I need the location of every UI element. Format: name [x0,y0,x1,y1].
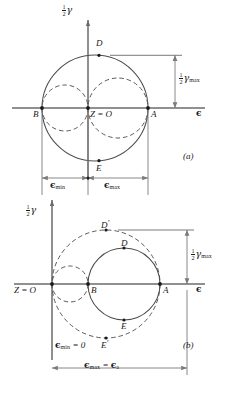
gamma-max-label-a-subscript: max [189,77,200,83]
y-axis-label-b-fraction: 1 2 [26,204,30,218]
eps-min-arrow-left-a [42,176,48,181]
x-axis-label-a: ϵ [196,109,201,118]
gamma-max-label-a: 1 2 γmax [179,72,200,86]
eps-min-equals-b: = 0 [72,340,85,350]
panel-a-axes [12,20,205,180]
point-marker-a-b [158,282,162,286]
eps-max-arrow-right-a [142,176,148,181]
point-marker-e-a [97,159,100,162]
gamma-max-dimension-a [110,55,182,108]
point-marker-b-a [40,106,44,110]
x-axis-label-b: ϵ [196,285,201,294]
point-label-e-prime-b: E′ [101,340,108,350]
y-axis-label-b: 1 2 γ [26,204,36,218]
y-axis-label-a-gamma: γ [67,4,73,15]
mohr-circle-diagram-a [0,0,225,393]
y-axis-label-b-gamma: γ [31,204,37,215]
point-label-d-a: D [96,39,103,48]
point-label-a-b: A [163,286,169,295]
point-label-b-b: B [91,286,97,295]
eps-max-arrow-left-b [52,366,58,371]
gamma-max-dimension-b [118,230,194,284]
point-marker-a-a [146,106,150,110]
y-axis-arrowhead-a [86,20,90,26]
eps-max-label-b: ϵmax = ϵa [84,361,119,370]
gamma-max-label-b-subscript: max [201,253,212,259]
epsilon-dimensions-b [52,290,187,375]
point-marker-z-o-b [50,282,54,286]
eps-min-label-b: ϵmin = 0 [55,341,85,350]
eps-mid-tick-a [87,177,90,180]
point-label-b-a: B [33,110,39,119]
eps-max-arrow-right-b [181,366,187,371]
y-axis-arrowhead-b [50,200,54,206]
eps-max-label-a: ϵmax [104,181,120,190]
origin-label-a: Z = O [90,110,112,119]
point-label-d-prime-b: D′ [101,220,109,230]
point-label-a-a: A [151,110,157,119]
point-label-e-a: E [96,164,102,173]
eps-min-label-a: ϵmin [50,181,65,190]
y-axis-label-a-fraction: 1 2 [62,4,66,18]
panel-b-axes [14,200,205,360]
gamma-max-arrow-top-a [173,55,178,61]
origin-label-b: Z = O [14,286,36,295]
gamma-max-label-b: 1 2 γmax [191,248,212,262]
gamma-max-arrow-bottom-a [173,102,178,108]
gamma-max-label-b-fraction: 1 2 [191,248,195,262]
gamma-max-arrow-top-b [185,230,190,236]
panel-tag-a: (a) [183,152,194,161]
point-label-e-b: E [121,322,127,331]
figure-root: 1 2 γ ϵ Z = O B A D E 1 2 γmax ϵmin ϵmax… [0,0,225,393]
point-marker-b-b [86,282,90,286]
panel-tag-b: (b) [183,341,194,350]
point-label-d-b: D [121,239,128,248]
y-axis-label-a: 1 2 γ [62,4,72,18]
point-marker-d-a [97,54,100,57]
gamma-max-arrow-bottom-b [185,278,190,284]
gamma-max-label-a-fraction: 1 2 [179,72,183,86]
